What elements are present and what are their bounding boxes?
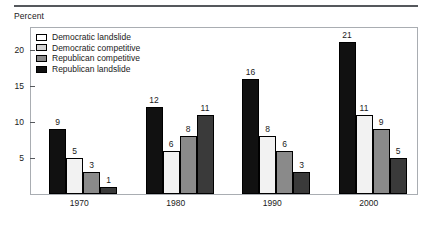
legend-item-label: Republican competitive (52, 54, 140, 63)
bar-rect (100, 187, 117, 194)
bar-group: 16863 (224, 28, 321, 194)
bar-rect (49, 129, 66, 194)
bar-rect (242, 79, 259, 194)
bar-value-label: 5 (383, 147, 413, 156)
y-axis-tick-label: 10 (0, 118, 24, 127)
legend-swatch-icon (36, 66, 47, 73)
bar-value-label: 1 (94, 176, 124, 185)
legend-swatch-icon (36, 44, 47, 51)
legend-item[interactable]: Republican landslide (36, 64, 140, 75)
x-axis-tick-label: 2000 (339, 199, 399, 208)
bar-rect (146, 107, 163, 194)
bar-rect (180, 136, 197, 194)
top-divider-rule (14, 5, 418, 7)
x-axis-tick-label: 1980 (146, 199, 206, 208)
y-axis-title: Percent (14, 11, 44, 21)
y-axis-tick-label: 5 (0, 154, 24, 163)
legend-item[interactable]: Republican competitive (36, 53, 140, 64)
bar-rect (373, 129, 390, 194)
bar-group: 211195 (321, 28, 418, 194)
bar (163, 28, 180, 194)
bar-rect (163, 151, 180, 194)
legend-item[interactable]: Democratic landslide (36, 32, 140, 43)
legend-item-label: Republican landslide (52, 65, 130, 74)
bar (373, 28, 390, 194)
bar (242, 28, 259, 194)
legend-swatch-icon (36, 55, 47, 62)
bar-value-label: 3 (287, 161, 317, 170)
y-axis-tick-label: 20 (0, 46, 24, 55)
bar-rect (293, 172, 310, 194)
bar-group: 126811 (128, 28, 225, 194)
bar-value-label: 11 (190, 104, 220, 113)
legend-item[interactable]: Democratic competitive (36, 43, 140, 54)
x-axis-tick-label: 1970 (49, 199, 109, 208)
legend-item-label: Democratic landslide (52, 33, 131, 42)
bar-rect (390, 158, 407, 194)
bar (259, 28, 276, 194)
chart-legend: Democratic landslideDemocratic competiti… (36, 32, 140, 74)
legend-item-label: Democratic competitive (52, 44, 140, 53)
bar (146, 28, 163, 194)
legend-swatch-icon (36, 34, 47, 41)
y-axis-tick-label: 15 (0, 82, 24, 91)
bar-rect (276, 151, 293, 194)
bar-rect (197, 115, 214, 194)
bar-rect (339, 42, 356, 194)
x-axis-tick-label: 1990 (242, 199, 302, 208)
bar (390, 28, 407, 194)
